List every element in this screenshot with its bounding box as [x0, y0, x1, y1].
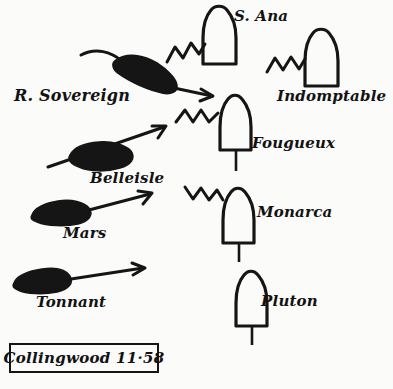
- ship-label-s-ana: S. Ana: [234, 9, 288, 24]
- battle-map-canvas: [0, 0, 393, 389]
- battle-diagram: R. Sovereign Belleisle Mars Tonnant S. A…: [0, 0, 393, 389]
- ship-label-indomptable: Indomptable: [277, 89, 386, 104]
- gunfire-zigzag-monarca: [185, 187, 223, 200]
- enemy-ship-indomptable: [305, 29, 338, 86]
- british-ship-tonnant: [13, 263, 145, 294]
- enemy-ship-monarca: [223, 188, 254, 262]
- legend-text: Collingwood 11·58: [3, 349, 164, 367]
- ship-label-monarca: Monarca: [257, 205, 332, 220]
- gunfire-zigzag-indomptable: [267, 57, 305, 72]
- enemy-ship-fougueux: [220, 95, 251, 171]
- ship-label-mars: Mars: [63, 226, 106, 241]
- ship-label-r-sovereign: R. Sovereign: [14, 88, 130, 104]
- legend-box: Collingwood 11·58: [9, 343, 159, 373]
- enemy-ship-s-ana: [203, 6, 236, 64]
- gunfire-zigzag-s-ana: [167, 43, 205, 62]
- gunfire-zigzag-fougueux: [176, 110, 218, 122]
- british-ship-belleisle: [48, 126, 166, 171]
- british-ship-mars: [31, 191, 152, 226]
- ship-label-belleisle: Belleisle: [90, 171, 164, 186]
- ship-label-fougueux: Fougueux: [252, 136, 335, 151]
- ship-label-tonnant: Tonnant: [36, 295, 106, 310]
- ship-label-pluton: Pluton: [261, 294, 318, 309]
